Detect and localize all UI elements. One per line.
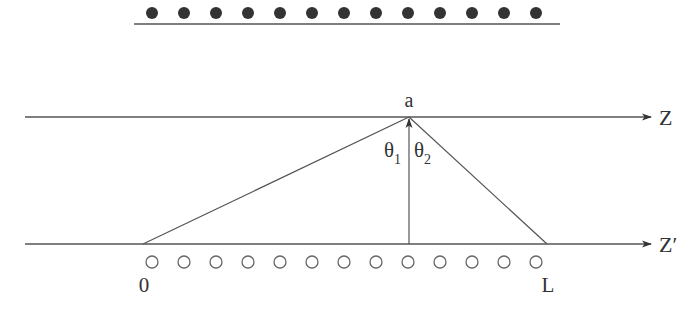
z-axis-label: Z [659, 105, 672, 130]
origin-label: 0 [139, 273, 150, 297]
line-a-to-L [409, 117, 547, 244]
theta-1-label: θ1 [384, 138, 401, 167]
open-dot-row [146, 256, 542, 268]
line-0-to-a [143, 117, 409, 244]
length-label: L [542, 273, 555, 297]
diagram-canvas: a Z Z′ θ1 θ2 0 L [0, 0, 696, 316]
theta-2-label: θ2 [414, 138, 431, 167]
filled-dot-row [146, 7, 542, 19]
point-a-label: a [405, 89, 414, 111]
z-prime-axis-label: Z′ [659, 232, 677, 257]
